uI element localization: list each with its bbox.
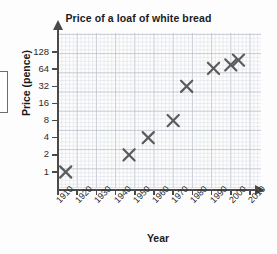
data-point-marker [168,115,179,126]
data-point-marker [60,166,71,177]
chart-figure: Price of a loaf of white bread 124816326… [0,0,277,254]
y-tick-mark [52,120,58,122]
y-tick-mark [52,154,58,156]
y-tick-mark [52,51,58,53]
y-tick-mark [52,137,58,139]
y-tick-label: 64 [38,63,49,74]
data-markers-layer [58,33,261,188]
y-tick-label: 16 [38,97,49,108]
data-point-marker [208,63,219,74]
data-point-marker [181,81,192,92]
y-tick-mark [52,171,58,173]
y-tick-label: 4 [44,131,49,142]
y-tick-label: 8 [44,114,49,125]
y-tick-mark [52,103,58,105]
y-tick-label: 1 [44,166,49,177]
y-tick-mark [52,68,58,70]
data-point-marker [143,132,154,143]
plot-area [58,33,261,188]
y-tick-label: 32 [38,80,49,91]
data-point-marker [123,149,134,160]
y-tick-label: 2 [44,148,49,159]
y-axis-arrow [53,20,63,30]
x-axis-label: Year [58,232,258,244]
y-tick-mark [52,86,58,88]
chart-title: Price of a loaf of white bread [0,12,277,24]
y-axis-label: Price (pence) [20,28,32,138]
y-tick-label: 128 [33,46,49,57]
cropped-side-box [0,71,8,113]
